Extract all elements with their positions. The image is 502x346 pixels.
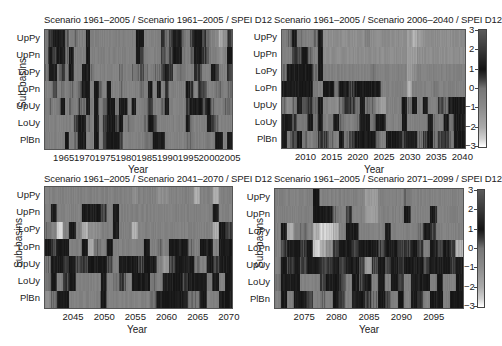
x-tick-label: 2030 [400,151,421,162]
y-tick-label: UpUy [241,99,277,110]
y-tick-label: UpPn [241,48,277,59]
y-tick-label: PlBn [241,133,277,144]
x-tick-label: 2045 [62,311,83,322]
y-tick-label: LoUy [4,117,40,128]
y-tick-label: LoUy [4,275,40,286]
x-axis-title: Year [127,324,147,335]
chart-title: Scenario 1961–2005 / Scenario 1961–2005 … [44,14,272,25]
heatmap-plot-area [274,188,464,309]
x-axis-title: Year [359,324,379,335]
x-tick-label: 2065 [187,311,208,322]
x-tick-label: 2080 [326,311,347,322]
y-tick-label: UpPn [4,49,40,60]
y-tick-label: UpPn [234,208,270,219]
x-tick-label: 2020 [347,151,368,162]
x-tick-label: 2070 [218,311,239,322]
y-tick-label: PlBn [234,293,270,304]
x-tick-label: 2050 [94,311,115,322]
colorbar-tick-label: 3 [469,24,474,35]
x-tick-label: 1985 [136,152,157,163]
x-tick-label: 2095 [423,311,444,322]
y-tick-label: UpPy [234,191,270,202]
x-tick-label: 2035 [426,151,447,162]
x-tick-label: 2000 [199,152,220,163]
y-tick-label: LoPn [4,83,40,94]
x-tick-label: 1965 [53,152,74,163]
x-tick-label: 2025 [373,151,394,162]
colorbar-tick-label: −3 [465,140,476,151]
y-tick-label: LoPy [4,223,40,234]
colorbar-tick-label: 3 [468,184,473,195]
colorbar-tick-label: −2 [465,121,476,132]
colorbar [477,189,485,308]
y-tick-label: UpPy [4,189,40,200]
y-tick-label: LoUy [234,276,270,287]
x-tick-label: 2085 [358,311,379,322]
colorbar-tick-mark [475,69,478,70]
y-tick-label: UpUy [234,259,270,270]
heatmap-plot-area [44,29,233,150]
x-tick-label: 1970 [74,152,95,163]
x-tick-label: 2090 [391,311,412,322]
heatmap-plot-area [281,29,466,149]
y-tick-label: LoPy [4,66,40,77]
colorbar-tick-mark [474,190,477,191]
colorbar-tick-mark [474,248,477,249]
colorbar-tick-label: 0 [468,242,473,253]
heatmap-plot-area [44,186,233,309]
colorbar-tick-label: 1 [469,63,474,74]
x-tick-label: 2060 [156,311,177,322]
colorbar-tick-label: 1 [468,223,473,234]
colorbar-tick-mark [474,229,477,230]
colorbar-tick-label: −1 [465,101,476,112]
colorbar-tick-label: −1 [464,261,475,272]
y-tick-label: UpPn [4,206,40,217]
colorbar-tick-label: 2 [468,203,473,214]
x-tick-label: 2040 [452,151,473,162]
colorbar-tick-label: 0 [469,82,474,93]
x-tick-label: 1975 [95,152,116,163]
x-tick-label: 2055 [125,311,146,322]
chart-title: Scenario 1961–2005 / Scenario 2071–2099 … [274,173,502,184]
y-tick-label: UpUy [4,258,40,269]
y-tick-label: LoPn [4,241,40,252]
y-tick-label: UpUy [4,100,40,111]
colorbar-tick-mark [475,49,478,50]
colorbar-tick-label: 2 [469,43,474,54]
y-tick-label: LoPy [234,225,270,236]
x-tick-label: 2005 [219,152,240,163]
y-tick-label: LoUy [241,116,277,127]
x-tick-label: 2075 [294,311,315,322]
colorbar-tick-mark [474,209,477,210]
colorbar [478,29,487,148]
y-tick-label: LoPn [234,242,270,253]
x-tick-label: 1980 [115,152,136,163]
colorbar-tick-mark [475,88,478,89]
colorbar-tick-mark [475,30,478,31]
x-tick-label: 1990 [157,152,178,163]
y-tick-label: PlBn [4,134,40,145]
y-tick-label: UpPy [241,31,277,42]
chart-title: Scenario 1961–2005 / Scenario 2041–2070 … [44,173,272,184]
y-tick-label: UpPy [4,32,40,43]
x-tick-label: 2010 [295,151,316,162]
colorbar-tick-label: −3 [464,300,475,311]
x-tick-label: 1995 [178,152,199,163]
colorbar-tick-label: −2 [464,281,475,292]
y-tick-label: PlBn [4,292,40,303]
x-tick-label: 2015 [321,151,342,162]
chart-title: Scenario 1961–2005 / Scenario 2006–2040 … [274,14,502,25]
y-tick-label: LoPy [241,65,277,76]
y-tick-label: LoPn [241,82,277,93]
